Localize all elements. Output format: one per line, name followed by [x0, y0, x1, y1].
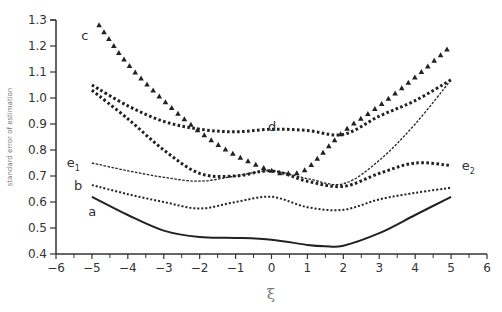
- y-tick-label: 0.6: [28, 195, 47, 209]
- triangle-marker: [121, 57, 127, 62]
- y-tick-label: 1.2: [28, 39, 47, 53]
- x-tick-label: 1: [304, 261, 312, 275]
- triangle-marker: [101, 29, 107, 34]
- y-tick-label: 0.7: [28, 169, 47, 183]
- series-group: [92, 22, 451, 247]
- triangle-marker: [169, 105, 175, 110]
- triangle-marker: [96, 22, 102, 27]
- triangle-marker: [245, 158, 251, 163]
- series-b: [92, 185, 451, 210]
- curve-label-d: d: [268, 119, 276, 134]
- triangle-marker: [425, 63, 431, 68]
- y-tick-label: 0.4: [28, 247, 47, 261]
- axes: −6−5−4−3−2−101234560.40.50.60.70.80.91.0…: [28, 13, 491, 275]
- x-tick-label: 6: [483, 261, 491, 275]
- chart: −6−5−4−3−2−101234560.40.50.60.70.80.91.0…: [0, 0, 502, 312]
- x-tick-label: −6: [47, 261, 65, 275]
- triangle-marker: [202, 132, 208, 137]
- y-axis-label: standard error of estimation: [6, 88, 14, 187]
- triangle-marker: [132, 69, 138, 74]
- y-tick-label: 0.5: [28, 221, 47, 235]
- triangle-marker: [144, 82, 150, 87]
- triangle-marker: [163, 99, 169, 104]
- triangle-marker: [215, 142, 221, 147]
- triangle-marker: [399, 85, 405, 90]
- curve-labels: cde1bae2: [67, 28, 475, 220]
- triangle-marker: [302, 167, 308, 172]
- triangle-marker: [386, 96, 392, 101]
- x-tick-label: −3: [155, 261, 173, 275]
- y-tick-label: 0.9: [28, 117, 47, 131]
- y-tick-label: 1.3: [28, 13, 47, 27]
- triangle-marker: [351, 121, 357, 126]
- y-tick-label: 1.0: [28, 91, 47, 105]
- triangle-marker: [261, 165, 267, 170]
- x-tick-label: −1: [227, 261, 245, 275]
- x-tick-label: −4: [119, 261, 137, 275]
- triangle-marker: [253, 162, 259, 167]
- triangle-marker: [326, 143, 332, 148]
- triangle-marker: [344, 126, 350, 131]
- x-tick-label: 5: [447, 261, 455, 275]
- triangle-marker: [238, 155, 244, 160]
- y-tick-label: 1.1: [28, 65, 47, 79]
- y-tick-label: 0.8: [28, 143, 47, 157]
- triangle-marker: [320, 150, 326, 155]
- triangle-marker: [419, 69, 425, 74]
- triangle-marker: [444, 47, 450, 52]
- triangle-marker: [438, 52, 444, 57]
- series-a: [92, 197, 451, 247]
- curve-label-a: a: [88, 204, 96, 219]
- x-tick-label: −5: [83, 261, 101, 275]
- triangle-marker: [175, 111, 181, 116]
- x-tick-label: 4: [411, 261, 419, 275]
- curve-label-e2: e2: [462, 158, 475, 176]
- triangle-marker: [358, 116, 364, 121]
- triangle-marker: [208, 137, 214, 142]
- triangle-marker: [116, 50, 122, 55]
- x-tick-label: 3: [375, 261, 383, 275]
- triangle-marker: [294, 170, 300, 175]
- triangle-marker: [138, 76, 144, 81]
- triangle-marker: [150, 88, 156, 93]
- triangle-marker: [412, 74, 418, 79]
- triangle-marker: [106, 36, 112, 41]
- x-tick-label: 0: [268, 261, 276, 275]
- x-tick-label: −2: [191, 261, 209, 275]
- triangle-marker: [379, 101, 385, 106]
- triangle-marker: [308, 162, 314, 167]
- x-tick-label: 2: [340, 261, 348, 275]
- curve-label-c: c: [81, 28, 88, 43]
- curve-label-e1: e1: [67, 155, 80, 173]
- triangle-marker: [332, 137, 338, 142]
- triangle-marker: [314, 156, 320, 161]
- triangle-marker: [182, 116, 188, 121]
- triangle-marker: [372, 106, 378, 111]
- triangle-marker: [406, 80, 412, 85]
- triangle-marker: [127, 63, 133, 68]
- x-axis-label: ξ: [267, 285, 275, 303]
- triangle-marker: [431, 58, 437, 63]
- triangle-marker: [392, 91, 398, 96]
- curve-label-b: b: [74, 178, 82, 193]
- triangle-marker: [230, 151, 236, 156]
- triangle-marker: [111, 43, 117, 48]
- triangle-marker: [156, 93, 162, 98]
- triangle-marker: [223, 146, 229, 151]
- series-c: [99, 25, 451, 173]
- triangle-marker: [365, 111, 371, 116]
